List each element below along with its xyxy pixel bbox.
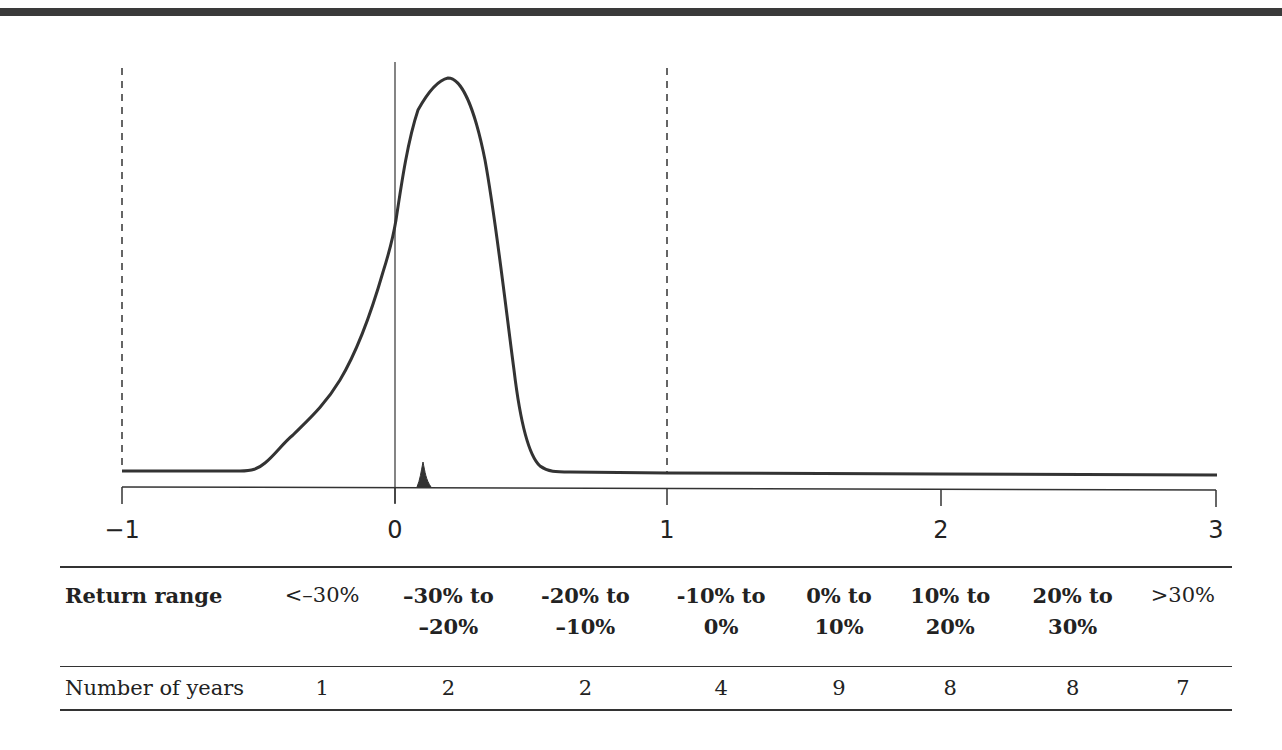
x-tick-label: −1 <box>104 516 139 544</box>
x-tick-label: 0 <box>387 516 402 544</box>
column-header: 10% to20% <box>889 567 1011 667</box>
spike-marker <box>417 462 431 487</box>
column-header: -10% to0% <box>653 567 789 667</box>
x-tick-label: 2 <box>933 516 948 544</box>
table-cell: 7 <box>1134 667 1232 711</box>
x-axis <box>122 487 1216 490</box>
column-header: –30% to–20% <box>379 567 517 667</box>
table-cell: 8 <box>1011 667 1133 711</box>
column-header: <–30% <box>265 567 379 667</box>
x-tick-label: 1 <box>659 516 674 544</box>
x-tick-label: 3 <box>1208 516 1223 544</box>
table-cell: 4 <box>653 667 789 711</box>
column-header: >30% <box>1134 567 1232 667</box>
table-cell: 1 <box>265 667 379 711</box>
return-distribution-table: Return range <–30% –30% to–20% -20% to–1… <box>60 566 1232 711</box>
column-header: 0% to10% <box>789 567 889 667</box>
table-cell: 2 <box>518 667 654 711</box>
table-cell: 9 <box>789 667 889 711</box>
density-curve <box>122 78 1217 475</box>
row-label: Number of years <box>60 667 265 711</box>
table-cell: 8 <box>889 667 1011 711</box>
table-row: Number of years 1 2 2 4 9 8 8 7 <box>60 667 1232 711</box>
column-header: -20% to–10% <box>518 567 654 667</box>
table-cell: 2 <box>379 667 517 711</box>
header-label: Return range <box>60 567 265 667</box>
density-chart: −1 0 1 2 3 <box>0 0 1282 560</box>
column-header: 20% to30% <box>1011 567 1133 667</box>
table-header-row: Return range <–30% –30% to–20% -20% to–1… <box>60 567 1232 667</box>
